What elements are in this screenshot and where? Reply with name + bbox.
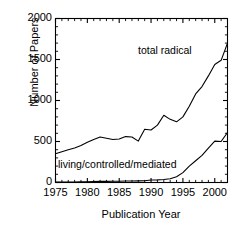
x-tick-label: 1980: [75, 186, 99, 198]
x-tick-label: 1990: [139, 186, 163, 198]
y-axis-title: Number of Papers: [28, 0, 40, 142]
x-axis-title: Publication Year: [55, 208, 227, 220]
series-label-living-controlled-mediated: living/controlled/mediated: [58, 158, 176, 170]
x-tick-label: 1985: [107, 186, 131, 198]
x-tick-label: 1995: [171, 186, 195, 198]
x-tick-label: 2000: [203, 186, 227, 198]
series-line-total-radical: [56, 43, 228, 154]
x-tick-label: 1975: [43, 186, 67, 198]
chart-figure: 0 500 1000 1500 2000 1975 1980 1985 1990…: [0, 0, 245, 230]
series-label-total-radical: total radical: [138, 44, 192, 56]
